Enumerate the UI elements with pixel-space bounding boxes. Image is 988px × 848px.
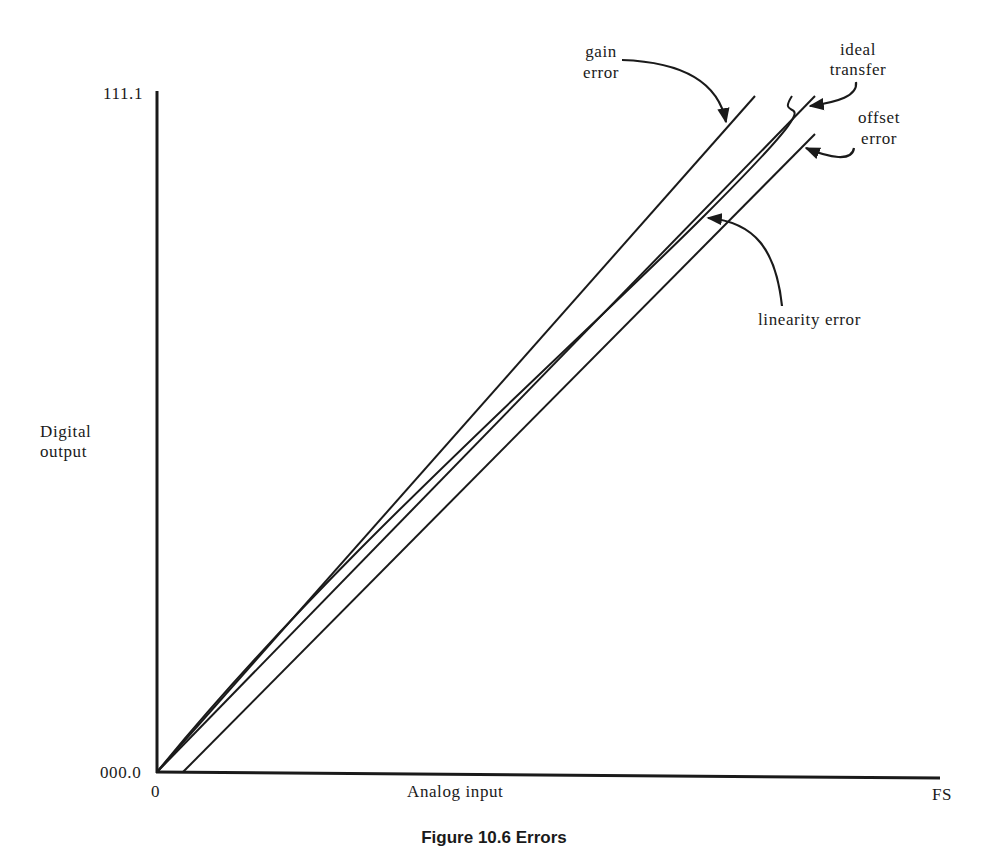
ideal-transfer-label-2: transfer	[818, 60, 898, 80]
linearity-error-label: linearity error	[758, 310, 861, 330]
x-tick-left: 0	[151, 782, 160, 802]
y-tick-top: 111.1	[103, 84, 143, 104]
y-axis-label-line2: output	[40, 442, 87, 462]
ideal-transfer-line	[157, 96, 815, 772]
x-tick-right: FS	[932, 785, 952, 805]
figure-caption: Figure 10.6 Errors	[0, 828, 988, 848]
y-axis-label-line1: Digital	[40, 422, 91, 442]
ideal-transfer-label-1: ideal	[818, 40, 898, 60]
x-axis-label: Analog input	[407, 782, 503, 802]
linearity-error-curve	[157, 96, 795, 772]
x-axis	[156, 772, 940, 778]
gain-error-label-2: error	[576, 63, 626, 83]
gain-error-label-1: gain	[576, 42, 626, 62]
offset-error-arrow	[806, 148, 854, 157]
offset-error-label-1: offset	[846, 108, 912, 128]
gain-error-arrow	[622, 60, 726, 122]
offset-error-label-2: error	[846, 129, 912, 149]
ideal-transfer-arrow	[810, 82, 856, 106]
y-tick-bottom: 000.0	[100, 763, 141, 783]
offset-error-line	[183, 134, 815, 772]
gain-error-line	[157, 96, 755, 772]
